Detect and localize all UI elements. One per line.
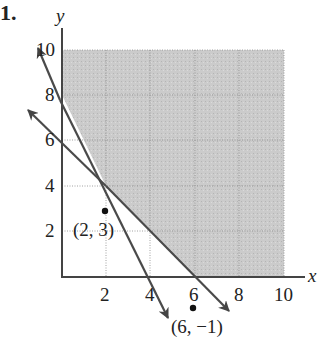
y-tick-8: 8	[45, 85, 55, 104]
y-tick-2: 2	[45, 221, 55, 240]
point-2-3	[102, 208, 108, 214]
x-tick-8: 8	[234, 285, 244, 304]
x-axis-label: x	[308, 266, 316, 285]
x-tick-2: 2	[100, 285, 110, 304]
problem-number: 1.	[0, 2, 17, 24]
point-6-neg1	[190, 305, 196, 311]
y-tick-10: 10	[36, 40, 55, 59]
y-tick-6: 6	[45, 130, 55, 149]
point-label-6-neg1: (6, −1)	[171, 317, 223, 336]
y-tick-4: 4	[45, 176, 55, 195]
x-tick-6: 6	[189, 285, 199, 304]
point-label-2-3: (2, 3)	[73, 220, 114, 239]
shaded-feasible-region	[62, 50, 284, 277]
y-axis-label: y	[56, 6, 64, 25]
x-tick-4: 4	[145, 285, 155, 304]
x-tick-10: 10	[274, 285, 293, 304]
